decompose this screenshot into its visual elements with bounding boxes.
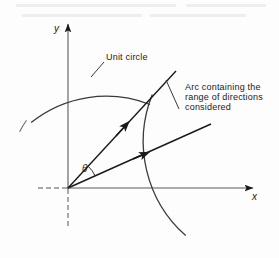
ray-upper-arrowhead — [116, 125, 126, 136]
diagram-canvas — [0, 0, 279, 258]
unit-circle-arc-leadin — [20, 120, 27, 131]
range-of-directions-arc — [143, 94, 185, 235]
unit-circle-label: Unit circle — [106, 52, 148, 62]
arc-note-leader-line — [166, 80, 179, 109]
y-axis-label: y — [54, 24, 59, 34]
ray-lower-arrowhead — [133, 154, 145, 159]
x-axis-label: x — [252, 192, 257, 202]
arc-note-line-2: range of directions — [185, 92, 263, 102]
arc-note-label: Arc containing the range of directions c… — [185, 82, 263, 112]
arc-note-line-3: considered — [185, 102, 263, 112]
unit-circle-leader-line — [91, 62, 104, 77]
theta-angle-arc — [88, 166, 95, 176]
theta-label: θ — [82, 164, 88, 174]
geometry-figure: y x θ Unit circle Arc containing the ran… — [0, 0, 279, 258]
arc-note-line-1: Arc containing the — [185, 82, 263, 92]
